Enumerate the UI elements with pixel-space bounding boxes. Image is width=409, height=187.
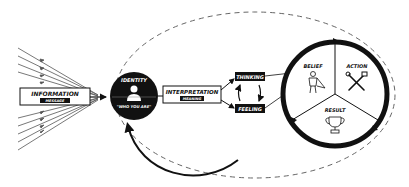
information-label: INFORMATION [31, 90, 79, 97]
arrow-interpretation-to-thinking [221, 79, 234, 90]
feedback-arrow-result-to-identity [128, 126, 238, 175]
identity-sublabel: "WHO YOU ARE" [117, 104, 152, 109]
action-label: ACTION [345, 63, 368, 69]
arrow-interpretation-to-feeling [221, 100, 234, 108]
interpretation-node: INTERPRETATION MEANING [163, 86, 221, 103]
interpretation-sublabel: MEANING [183, 97, 202, 101]
belief-action-result-cycle: BELIEF ACTION RESULT [283, 38, 387, 146]
information-node: INFORMATION MESSAGE [20, 88, 90, 105]
thinking-label: THINKING [236, 74, 264, 80]
thinking-node: THINKING [235, 72, 265, 81]
identity-node: IDENTITY "WHO YOU ARE" [110, 72, 158, 120]
result-label: RESULT [325, 107, 346, 113]
information-sublabel: MESSAGE [46, 99, 65, 103]
belief-cycle-diagram: INFORMATION MESSAGE IDENTITY "WHO YOU AR… [0, 0, 409, 187]
belief-label: BELIEF [303, 63, 323, 69]
thinking-feeling-loop-arrows [239, 85, 261, 101]
feeling-node: FEELING [235, 104, 265, 113]
interpretation-label: INTERPRETATION [166, 89, 219, 95]
feeling-label: FEELING [238, 106, 262, 112]
identity-label: IDENTITY [121, 77, 148, 83]
